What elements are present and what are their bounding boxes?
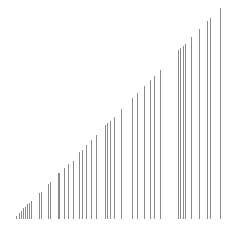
chart-lines bbox=[17, 8, 221, 219]
vertical-line-chart bbox=[0, 0, 231, 230]
